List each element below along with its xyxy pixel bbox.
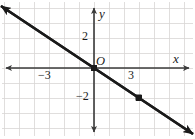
y-tick-label-negative-2: −2 bbox=[76, 90, 89, 102]
x-tick-label-negative-3: −3 bbox=[38, 69, 51, 81]
y-tick-label-2: 2 bbox=[82, 30, 88, 42]
coordinate-plane-figure: y x O −3 3 2 −2 bbox=[0, 0, 195, 139]
x-tick-label-3: 3 bbox=[128, 69, 134, 81]
x-axis-label: x bbox=[173, 52, 179, 65]
graph-canvas bbox=[0, 0, 195, 139]
y-axis-label: y bbox=[99, 7, 105, 20]
origin-label: O bbox=[96, 55, 105, 68]
data-point-3-neg2 bbox=[136, 95, 142, 101]
